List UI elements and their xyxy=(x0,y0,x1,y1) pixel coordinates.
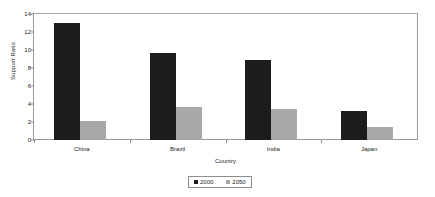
y-axis-tick-label: 10 xyxy=(24,47,31,53)
legend-swatch-icon xyxy=(194,180,198,184)
bar-china-2000 xyxy=(54,23,80,140)
chart-legend: 20002050 xyxy=(188,176,252,188)
x-axis-tick-mark xyxy=(130,140,131,143)
x-axis-tick-mark xyxy=(34,140,35,143)
bar-group: Japan xyxy=(321,14,417,140)
legend-item-2050: 2050 xyxy=(226,179,245,185)
bar-brazil-2050 xyxy=(176,107,202,140)
bar-group: China xyxy=(34,14,130,140)
x-axis-tick-mark xyxy=(226,140,227,143)
bar-china-2050 xyxy=(80,121,106,140)
bar-japan-2000 xyxy=(341,111,367,140)
x-axis-category-label-japan: Japan xyxy=(361,146,377,152)
x-axis-category-label-brazil: Brazil xyxy=(170,146,185,152)
y-axis-tick-label: 14 xyxy=(24,11,31,17)
bar-brazil-2000 xyxy=(150,53,176,140)
x-axis-category-label-china: China xyxy=(74,146,90,152)
legend-item-2000: 2000 xyxy=(194,179,213,185)
plot-area: 02468101214ChinaBrazilIndiaJapan xyxy=(34,14,417,140)
y-axis-tick-label: 12 xyxy=(24,29,31,35)
y-axis-title: Support Ratio xyxy=(10,16,16,106)
bar-india-2000 xyxy=(245,60,271,140)
x-axis-category-label-india: India xyxy=(267,146,280,152)
bar-japan-2050 xyxy=(367,127,393,140)
x-axis-title: Country xyxy=(33,158,418,164)
legend-label: 2050 xyxy=(232,179,245,185)
legend-label: 2000 xyxy=(200,179,213,185)
bar-chart: Support Ratio 02468101214ChinaBrazilIndi… xyxy=(0,0,435,197)
legend-swatch-icon xyxy=(226,180,230,184)
x-axis-tick-mark xyxy=(321,140,322,143)
bar-group: India xyxy=(226,14,322,140)
bar-group: Brazil xyxy=(130,14,226,140)
bar-india-2050 xyxy=(271,109,297,140)
